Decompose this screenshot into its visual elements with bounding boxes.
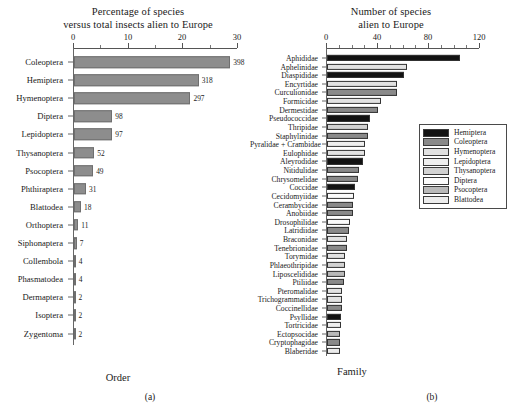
bar [327,167,359,173]
x-axis-tick-label: 20 [178,32,187,42]
bar [327,141,365,147]
legend-label: Coleoptera [454,138,487,146]
x-axis-minor-tick [415,45,416,48]
bar-value-label: 2 [79,329,83,338]
x-axis-tick-label: 80 [424,32,433,42]
bar [74,74,199,86]
panel-a-letter: (a) [145,392,156,402]
category-label: Hemiptera [0,76,63,85]
category-tick [68,134,73,135]
category-label: Phthiraptera [0,184,63,193]
bar [327,270,345,276]
legend-swatch [423,129,449,137]
chart-legend: HemipteraColeopteraHymenopteraLepidopter… [419,124,507,209]
bar [327,64,407,70]
bar [327,219,350,225]
category-tick [322,333,326,334]
bar [327,55,460,61]
category-tick [322,152,326,153]
bar [327,72,404,78]
category-label: Collembola [0,257,63,266]
legend-swatch [423,186,449,194]
x-axis-minor-tick [441,45,442,48]
legend-swatch [423,177,449,185]
legend-swatch [423,148,449,156]
legend-item: Coleoptera [423,138,502,148]
category-tick [322,92,326,93]
legend-item: Blattodea [423,195,502,205]
bar [74,237,77,249]
legend-label: Blattodea [454,196,483,204]
figure-root: Percentage of species versus total insec… [0,0,511,414]
bar [327,314,341,320]
category-tick [68,170,73,171]
bar [74,56,230,68]
x-axis-major-tick [479,43,480,48]
bar [74,111,112,123]
bar [327,322,341,328]
x-axis-line [73,48,237,49]
category-tick [322,101,326,102]
category-label: Orthoptera [0,220,63,229]
category-tick [322,239,326,240]
bar [327,89,397,95]
legend-swatch [423,196,449,204]
legend-label: Lepidoptera [454,158,491,166]
category-tick [322,161,326,162]
category-tick [322,282,326,283]
panel-b-title: Number of species alien to Europe [306,6,476,31]
bar [327,331,340,337]
panel-a: Percentage of species versus total insec… [0,0,256,414]
legend-label: Hemiptera [454,129,486,137]
legend-label: Diptera [454,177,477,185]
legend-swatch [423,138,449,146]
panel-b-title-line2: alien to Europe [306,19,476,32]
x-axis-major-tick [182,43,183,48]
bar [74,183,86,195]
bar [327,176,358,182]
x-axis-minor-tick [352,45,353,48]
category-tick [322,299,326,300]
bar [327,339,340,345]
bar [74,255,76,267]
legend-label: Hymenoptera [454,148,495,156]
category-tick [322,178,326,179]
x-axis-tick-label: 40 [373,32,382,42]
category-tick [322,144,326,145]
category-tick [68,206,73,207]
x-axis-minor-tick [466,45,467,48]
category-tick [322,264,326,265]
x-axis-major-tick [377,43,378,48]
bar [327,227,349,233]
category-tick [68,116,73,117]
category-label: Siphonaptera [0,239,63,248]
category-tick [68,98,73,99]
bar [327,150,365,156]
bar [74,273,76,285]
bar [327,81,397,87]
x-axis-minor-tick [403,45,404,48]
bar [327,193,354,199]
category-tick [68,62,73,63]
bar [327,107,378,113]
category-tick [322,109,326,110]
bar [327,288,342,294]
category-tick [322,273,326,274]
category-label: Zygentoma [0,329,63,338]
category-tick [68,297,73,298]
category-tick [322,118,326,119]
category-tick [322,230,326,231]
bar-value-label: 18 [84,202,91,211]
bar-value-label: 2 [79,311,83,320]
bar-value-label: 31 [89,184,96,193]
bar-value-label: 52 [97,148,104,157]
category-tick [322,66,326,67]
category-tick [68,188,73,189]
bar-value-label: 7 [80,239,84,248]
category-tick [322,290,326,291]
bar [74,219,78,231]
x-axis-tick-label: 0 [324,32,328,42]
panel-b: Number of species alien to Europe 040801… [256,0,511,414]
category-tick [322,213,326,214]
category-tick [68,315,73,316]
